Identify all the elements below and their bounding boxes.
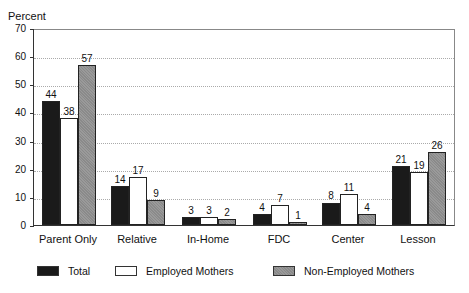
gridline	[34, 86, 454, 87]
value-label: 1	[286, 210, 310, 221]
plot-area: 443857141793324718114211926	[33, 29, 455, 226]
legend-item-total: Total	[37, 265, 90, 277]
legend-swatch-nonemployed	[273, 266, 295, 276]
bar-total	[42, 101, 60, 225]
y-tick-label: 30	[0, 136, 26, 147]
value-label: 57	[75, 53, 99, 64]
gridline	[34, 114, 454, 115]
y-tick-label: 70	[0, 23, 26, 34]
y-tick-mark	[30, 113, 34, 114]
bar-total	[182, 217, 200, 225]
x-category-label: FDC	[239, 233, 319, 245]
bar-employed-mothers	[410, 172, 428, 225]
gridline	[34, 143, 454, 144]
legend-item-employed: Employed Mothers	[115, 265, 234, 277]
bar-non-employed-mothers	[147, 200, 165, 225]
bar-employed-mothers	[129, 177, 147, 225]
bar-total	[322, 203, 340, 226]
gridline	[34, 171, 454, 172]
x-category-label: In-Home	[168, 233, 248, 245]
y-tick-mark	[30, 29, 34, 30]
value-label: 44	[39, 89, 63, 100]
y-tick-label: 0	[0, 220, 26, 231]
y-tick-mark	[30, 85, 34, 86]
y-tick-label: 50	[0, 79, 26, 90]
legend-swatch-total	[37, 266, 59, 276]
x-category-label: Parent Only	[28, 233, 108, 245]
value-label: 7	[268, 193, 292, 204]
bar-non-employed-mothers	[78, 65, 96, 225]
legend: Total Employed Mothers Non-Employed Moth…	[0, 265, 469, 285]
y-tick-label: 60	[0, 51, 26, 62]
x-category-label: Center	[308, 233, 388, 245]
bar-non-employed-mothers	[218, 219, 236, 225]
bar-non-employed-mothers	[289, 222, 307, 225]
legend-item-nonemployed: Non-Employed Mothers	[273, 265, 414, 277]
bar-total	[111, 186, 129, 225]
value-label: 2	[215, 207, 239, 218]
value-label: 17	[126, 165, 150, 176]
value-label: 4	[355, 202, 379, 213]
bar-total	[392, 166, 410, 225]
y-tick-label: 10	[0, 192, 26, 203]
x-category-label: Relative	[97, 233, 177, 245]
legend-label: Non-Employed Mothers	[304, 265, 414, 277]
gridline	[34, 199, 454, 200]
legend-label: Employed Mothers	[146, 265, 234, 277]
y-tick-mark	[30, 57, 34, 58]
bar-non-employed-mothers	[428, 152, 446, 225]
y-tick-mark	[30, 226, 34, 227]
y-tick-mark	[30, 142, 34, 143]
y-tick-mark	[30, 198, 34, 199]
y-axis-title: Percent	[8, 10, 46, 22]
y-tick-mark	[30, 170, 34, 171]
bar-employed-mothers	[60, 118, 78, 225]
value-label: 11	[337, 182, 361, 193]
y-tick-label: 40	[0, 107, 26, 118]
bar-total	[253, 214, 271, 225]
y-tick-label: 20	[0, 164, 26, 175]
legend-swatch-employed	[115, 266, 137, 276]
x-category-label: Lesson	[378, 233, 458, 245]
value-label: 9	[144, 188, 168, 199]
value-label: 26	[425, 140, 449, 151]
legend-label: Total	[68, 265, 90, 277]
bar-non-employed-mothers	[358, 214, 376, 225]
